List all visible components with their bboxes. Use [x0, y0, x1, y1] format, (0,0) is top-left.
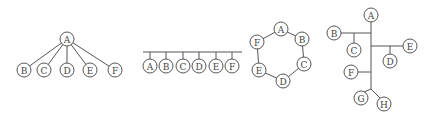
node-e: E — [83, 63, 97, 77]
node-label: E — [87, 66, 94, 76]
node-label: A — [63, 35, 71, 45]
node-label: E — [213, 62, 220, 72]
node-label: B — [163, 62, 170, 72]
node-d: D — [383, 54, 397, 68]
node-d: D — [276, 74, 290, 88]
node-label: C — [351, 46, 358, 56]
node-label: D — [63, 66, 70, 76]
node-f: F — [344, 65, 358, 79]
node-label: F — [254, 38, 260, 48]
node-label: F — [348, 68, 354, 78]
node-g: G — [354, 91, 368, 105]
node-label: D — [386, 57, 393, 67]
node-e: E — [252, 63, 266, 77]
node-c: C — [176, 59, 190, 73]
node-label: A — [277, 25, 285, 35]
node-label: A — [367, 11, 375, 21]
node-label: E — [256, 66, 263, 76]
node-c: C — [37, 63, 51, 77]
node-label: C — [301, 60, 308, 70]
node-a: A — [143, 59, 157, 73]
node-a: A — [274, 22, 288, 36]
network-topology-diagrams: ABCDEF ABCDEF ABCDEF ABCEDFGH — [0, 0, 432, 118]
node-label: C — [41, 66, 48, 76]
tree-topology-diagram: ABCEDFGH — [327, 8, 417, 111]
node-f: F — [108, 63, 122, 77]
node-label: D — [195, 62, 202, 72]
node-label: C — [180, 62, 187, 72]
node-label: B — [21, 66, 28, 76]
node-e: E — [403, 39, 417, 53]
node-label: B — [299, 35, 306, 45]
node-b: B — [159, 59, 173, 73]
node-label: E — [407, 42, 414, 52]
node-label: B — [331, 29, 338, 39]
tree-branch-line — [371, 89, 380, 98]
node-h: H — [377, 97, 391, 111]
node-label: A — [146, 62, 154, 72]
star-topology-diagram: ABCDEF — [17, 32, 122, 77]
node-label: D — [279, 77, 286, 87]
tree-branch-line — [364, 89, 371, 92]
node-label: F — [229, 62, 235, 72]
node-label: H — [380, 100, 388, 110]
node-b: B — [327, 26, 341, 40]
node-b: B — [295, 32, 309, 46]
node-label: F — [112, 66, 118, 76]
bus-topology-diagram: ABCDEF — [143, 52, 242, 73]
node-e: E — [209, 59, 223, 73]
node-f: F — [250, 35, 264, 49]
node-a: A — [364, 8, 378, 22]
node-label: G — [357, 94, 364, 104]
node-c: C — [297, 57, 311, 71]
node-c: C — [347, 43, 361, 57]
node-d: D — [192, 59, 206, 73]
node-f: F — [225, 59, 239, 73]
node-a: A — [60, 32, 74, 46]
node-b: B — [17, 63, 31, 77]
node-d: D — [60, 63, 74, 77]
ring-topology-diagram: ABCDEF — [250, 22, 311, 88]
